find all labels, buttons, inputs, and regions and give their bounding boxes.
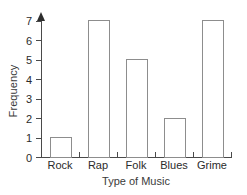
- y-axis-tick-labels: 0 1 2 3 4 5 6 7: [20, 0, 32, 195]
- bar-blues: [164, 118, 186, 158]
- y-axis-label: Frequency: [7, 21, 21, 161]
- y-tick-label: 4: [20, 75, 32, 86]
- y-tick-label: 5: [20, 55, 32, 66]
- bar-rap: [88, 20, 110, 158]
- x-category-label-rap: Rap: [79, 158, 117, 172]
- x-axis-label: Type of Music: [41, 175, 231, 187]
- y-tick-label: 0: [20, 153, 32, 164]
- x-category-label-blues: Blues: [155, 158, 193, 172]
- y-tick-label: 2: [20, 114, 32, 125]
- x-tick-mark: [231, 152, 232, 158]
- y-axis-arrow-icon: [37, 12, 45, 21]
- y-axis-line: [41, 20, 42, 158]
- x-category-label-folk: Folk: [117, 158, 155, 172]
- y-tick-label: 6: [20, 36, 32, 47]
- x-category-label-rock: Rock: [41, 158, 79, 172]
- y-tick-label: 3: [20, 94, 32, 105]
- x-category-label-grime: Grime: [193, 158, 231, 172]
- bar-rock: [50, 137, 72, 158]
- y-tick-label: 7: [20, 16, 32, 27]
- bar-folk: [126, 59, 148, 158]
- bar-grime: [202, 20, 224, 158]
- bar-chart: Frequency 0 1 2 3 4 5 6 7 Rock Rap Folk …: [0, 0, 247, 195]
- y-tick-label: 1: [20, 133, 32, 144]
